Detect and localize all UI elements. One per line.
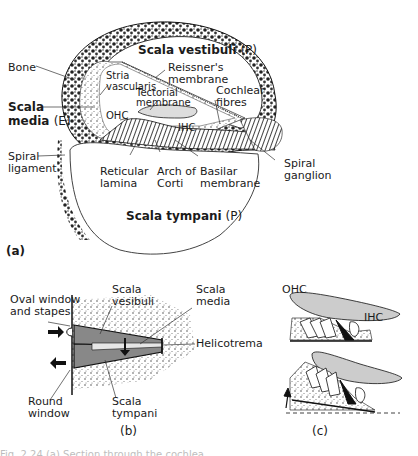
panel-tag-b: (b) (120, 424, 137, 438)
label-basilar-membrane: Basilar membrane (200, 166, 260, 190)
label-ihc-a: IHC (178, 122, 195, 134)
label-scala-tympani-b: Scala tympani (112, 396, 157, 420)
label-helicotrema: Helicotrema (196, 338, 263, 350)
label-scala-media-b: Scala media (196, 284, 230, 308)
label-scala-vestibuli-b: Scala vesibuli (112, 284, 154, 308)
figure-caption: Fig. 2.24 (a) Section through the cochle… (0, 448, 204, 456)
label-cochlear-fibres: Cochlear fibres (216, 85, 265, 109)
label-scala-media: Scala media (E) (8, 100, 71, 128)
hair-cell-detail (284, 292, 402, 413)
label-round-window: Round window (28, 396, 70, 420)
label-reissners-membrane: Reissner's membrane (168, 62, 228, 86)
label-bone: Bone (8, 62, 36, 74)
label-scala-tympani: Scala tympani (P) (126, 210, 242, 222)
label-ohc-c: OHC (282, 284, 307, 296)
panel-tag-c: (c) (312, 424, 328, 438)
label-tectorial-membrane: Tectorial membrane (136, 88, 191, 108)
label-oval-window: Oval window and stapes (10, 294, 80, 318)
label-reticular-lamina: Reticular lamina (100, 166, 149, 190)
label-spiral-ligament: Spiral ligament (8, 151, 57, 175)
label-ohc-a: OHC (106, 110, 128, 122)
panel-tag-a: (a) (6, 244, 25, 258)
label-ihc-c: IHC (364, 312, 383, 324)
label-spiral-ganglion: Spiral ganglion (284, 158, 332, 182)
label-arch-of-corti: Arch of Corti (157, 166, 196, 190)
label-scala-vestibuli: Scala vestibuli (P) (138, 44, 257, 56)
